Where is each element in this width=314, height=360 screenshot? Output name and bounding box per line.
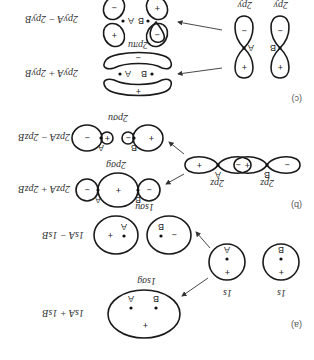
sign-plus: + xyxy=(242,62,247,72)
mo-name: 2pσu xyxy=(108,113,128,124)
atom-label-a: A xyxy=(215,170,221,180)
sign-minus: − xyxy=(278,26,283,36)
atomic-orbital-2py-b: + − B 2py xyxy=(270,0,289,78)
sign-plus: + xyxy=(143,320,148,330)
atom-label-b: B xyxy=(141,69,147,79)
sign-plus: + xyxy=(112,30,117,40)
atom-label-b: B xyxy=(158,222,164,232)
sign-minus: − xyxy=(112,3,117,13)
combination-label: 2pyA − 2pyB xyxy=(25,14,78,25)
panel-a-label: (a) xyxy=(291,320,302,330)
mo-2p-sigma-u: + − + − B A 2pσu 2pzA − 2pzB xyxy=(18,113,163,153)
sign-minus: − xyxy=(126,133,131,143)
mo-name: 1sσg xyxy=(137,276,156,287)
atom-label-b: B xyxy=(264,170,270,180)
combination-label: 1sA − 1sB xyxy=(42,230,84,241)
atom-label-b: B xyxy=(135,195,141,205)
sign-plus: + xyxy=(155,3,160,13)
arrow-to-bonding xyxy=(178,68,222,74)
atomic-orbital-2pz-a: 2pz − + A xyxy=(185,157,251,189)
sign-minus: − xyxy=(155,30,160,40)
combination-label: 2pzA − 2pzB xyxy=(18,132,70,143)
atom-label-a: A xyxy=(95,195,101,205)
atomic-orbital-1s-a: 1s + A xyxy=(209,244,245,299)
sign-minus: − xyxy=(236,160,241,170)
mo-2p-sigma-g: − + − B A 2pσg 2pzA + 2pzB xyxy=(18,160,160,207)
panel-c-label: (c) xyxy=(292,94,303,104)
atom-label-a: A xyxy=(125,69,131,79)
atom-label-b: B xyxy=(138,16,144,26)
combination-label: 2pzA + 2pzB xyxy=(18,184,70,195)
sign-plus: + xyxy=(225,267,230,277)
orbital-label: 2py xyxy=(273,0,288,11)
mo-1s-sigma-g: + B A 1sσg 1sA + 1sB xyxy=(42,276,180,338)
atomic-orbital-2py-a: + − A 2py xyxy=(235,0,254,78)
atom-label-a: A xyxy=(98,143,104,153)
sign-minus: − xyxy=(85,185,90,195)
sign-minus: − xyxy=(172,230,177,240)
sign-plus: + xyxy=(197,160,202,170)
combination-label: 2pyA + 2pyB xyxy=(25,68,78,79)
arrow-to-antibonding xyxy=(196,232,210,248)
atom-label-b: B xyxy=(153,294,159,304)
orbital-label: 2py xyxy=(237,0,252,11)
sign-plus: + xyxy=(149,133,154,143)
arrow-to-antibonding xyxy=(169,142,184,154)
panel-a: (a) 1s + B 1s + A + B A 1sσg 1sA + 1sB −… xyxy=(42,202,302,338)
atomic-orbital-1s-b: 1s + B xyxy=(263,244,299,299)
mo-2p-pi-g: − + + − B A 2pyA − 2pyB xyxy=(25,0,171,50)
atom-label-b: B xyxy=(131,143,137,153)
panel-b: (b) 2pz − + B 2pz − + A − + − B A 2pσg 2… xyxy=(18,113,302,210)
atom-label-a: A xyxy=(248,43,254,53)
sign-minus: − xyxy=(285,160,290,170)
panel-b-label: (b) xyxy=(291,200,302,210)
arrow-to-bonding xyxy=(166,174,184,184)
combination-label: 1sA + 1sB xyxy=(42,308,84,319)
molecular-orbital-diagram: (a) 1s + B 1s + A + B A 1sσg 1sA + 1sB −… xyxy=(0,0,314,360)
arrow-to-antibonding xyxy=(178,22,222,30)
atom-label-a: A xyxy=(128,294,134,304)
sign-plus: + xyxy=(279,267,284,277)
sign-plus: + xyxy=(105,133,110,143)
orbital-label: 1s xyxy=(223,288,232,299)
sign-minus: − xyxy=(147,185,152,195)
atom-label-a: A xyxy=(121,222,127,232)
arrow-to-bonding xyxy=(182,278,208,296)
sign-plus: + xyxy=(136,86,141,96)
mo-1s-sigma-u: − B + A 1sσu 1sA − 1sB xyxy=(42,202,191,254)
atom-label-a: A xyxy=(224,245,230,255)
mo-name: 2pπu xyxy=(128,40,148,51)
sign-plus: + xyxy=(278,62,283,72)
panel-c: (c) + − B 2py + − A 2py + − B A 2pπu 2py… xyxy=(25,0,302,104)
sign-minus: − xyxy=(242,26,247,36)
orbital-label: 1s xyxy=(277,288,286,299)
sign-plus: + xyxy=(108,230,113,240)
atom-label-b: B xyxy=(270,43,276,53)
sign-plus: + xyxy=(116,185,121,195)
mo-2p-pi-u: + − B A 2pπu 2pyA + 2pyB xyxy=(25,40,171,96)
diagram-canvas: (a) 1s + B 1s + A + B A 1sσg 1sA + 1sB −… xyxy=(0,0,314,360)
sign-minus: − xyxy=(136,53,141,63)
sign-minus: − xyxy=(85,133,90,143)
atom-label-a: A xyxy=(128,16,134,26)
mo-name: 2pσg xyxy=(106,160,126,171)
atom-label-b: B xyxy=(278,245,284,255)
